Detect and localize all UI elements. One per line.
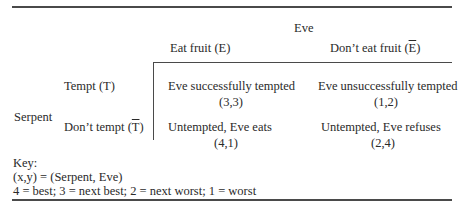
row-header-close: ) — [139, 120, 143, 134]
column-player-label: Eve — [294, 21, 313, 35]
bottom-rule — [12, 199, 452, 201]
top-rule — [12, 6, 452, 8]
row-player-label: Serpent — [14, 110, 52, 124]
row-divider-vertical — [153, 62, 154, 140]
row-header-close: ) — [111, 79, 115, 93]
cell-payoff: (4,1) — [168, 136, 294, 150]
column-header-label: Don’t eat fruit ( — [330, 41, 409, 55]
cell-payoff: (2,4) — [321, 136, 457, 150]
row-header-label: Tempt ( — [64, 79, 103, 93]
cell-payoff: (1,2) — [318, 95, 454, 109]
cell-tempt-eat: Eve successfully tempted (3,3) — [168, 79, 294, 109]
cell-outcome: Untempted, Eve eats — [168, 120, 294, 134]
column-header-label: Eat fruit ( — [170, 41, 219, 55]
column-header-close: ) — [416, 41, 420, 55]
cell-payoff: (3,3) — [168, 95, 294, 109]
cell-outcome: Eve unsuccessfully tempted — [318, 79, 454, 93]
row-header-tempt: Tempt (T) — [64, 79, 115, 93]
column-header-dont-eat-fruit: Don’t eat fruit (E) — [330, 41, 420, 55]
cell-dont-tempt-dont-eat: Untempted, Eve refuses (2,4) — [321, 120, 457, 150]
key-title: Key: — [13, 156, 37, 170]
cell-dont-tempt-eat: Untempted, Eve eats (4,1) — [168, 120, 294, 150]
row-header-label: Don’t tempt ( — [64, 120, 132, 134]
row-header-symbol: T — [103, 79, 111, 93]
key-line-ranking: 4 = best; 3 = next best; 2 = next worst;… — [13, 184, 256, 198]
key-line-notation: (x,y) = (Serpent, Eve) — [13, 170, 122, 184]
cell-outcome: Eve successfully tempted — [168, 79, 294, 93]
cell-outcome: Untempted, Eve refuses — [321, 120, 457, 134]
cell-tempt-dont-eat: Eve unsuccessfully tempted (1,2) — [318, 79, 454, 109]
header-rule — [153, 62, 452, 63]
row-header-dont-tempt: Don’t tempt (T) — [64, 120, 144, 134]
column-header-close: ) — [226, 41, 230, 55]
column-header-eat-fruit: Eat fruit (E) — [170, 41, 230, 55]
